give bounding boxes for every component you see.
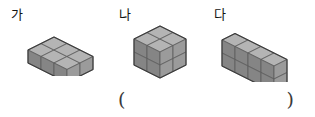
figure-ga	[22, 24, 102, 76]
figure-da	[220, 20, 310, 82]
figure-na	[132, 22, 188, 80]
figure-da-isometric-drawing	[220, 20, 310, 82]
answer-blank[interactable]: ( )	[118, 86, 294, 112]
figure-na-isometric-drawing	[132, 22, 188, 80]
worksheet-canvas: 가	[0, 0, 315, 117]
figure-ga-isometric-drawing	[22, 24, 102, 76]
figure-label-na: 나	[119, 8, 131, 21]
answer-open-paren: (	[118, 86, 125, 112]
answer-close-paren: )	[287, 86, 294, 112]
figure-label-ga: 가	[11, 8, 23, 21]
